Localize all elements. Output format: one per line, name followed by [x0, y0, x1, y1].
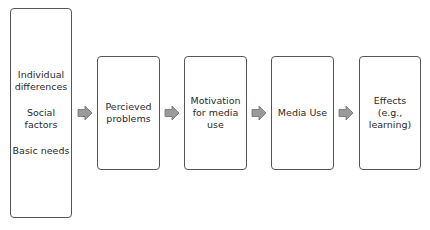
antecedents-box: Individual differences Social factors Ba…: [10, 8, 72, 218]
label-line: Effects: [374, 95, 406, 107]
label-line: Individual: [15, 69, 68, 81]
label-line: Motivation: [190, 95, 240, 107]
label-line: use: [207, 119, 224, 131]
label-line: differences: [15, 81, 68, 93]
motivation-box: Motivation for media use: [184, 56, 247, 170]
media-use-box: Media Use: [271, 56, 334, 170]
label-line: Basic needs: [13, 145, 70, 157]
label-line: Percieved: [105, 101, 151, 113]
effects-box: Effects (e.g., learning): [359, 56, 421, 170]
label-line: for media: [193, 107, 239, 119]
block-arrow-right-icon: [251, 105, 267, 121]
social-factors-label: Social factors: [25, 107, 58, 131]
label-line: Media Use: [278, 107, 327, 119]
label-line: learning): [369, 119, 411, 131]
label-line: problems: [106, 113, 150, 125]
block-arrow-right-icon: [77, 105, 93, 121]
block-arrow-right-icon: [164, 105, 180, 121]
label-line: Social: [25, 107, 58, 119]
label-line: factors: [25, 119, 58, 131]
basic-needs-label: Basic needs: [13, 145, 70, 157]
perceived-problems-box: Percieved problems: [97, 56, 160, 170]
label-line: (e.g.,: [378, 107, 403, 119]
block-arrow-right-icon: [338, 105, 354, 121]
individual-differences-label: Individual differences: [15, 69, 68, 93]
